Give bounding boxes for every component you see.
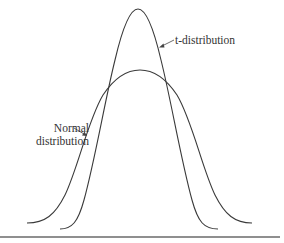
normal-distribution-label: Normal distribution [17,122,89,148]
normal-distribution-label-line2: distribution [17,135,89,148]
t-distribution-pointer-icon [159,40,174,48]
normal-distribution-label-line1: Normal [17,122,89,135]
t-distribution-label: t-distribution [175,34,235,47]
